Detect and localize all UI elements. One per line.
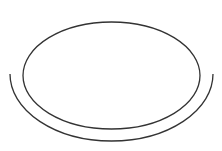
plate-top-ellipse: [23, 22, 200, 129]
plate-drawing: [0, 0, 222, 151]
diagram-canvas: [0, 0, 222, 151]
